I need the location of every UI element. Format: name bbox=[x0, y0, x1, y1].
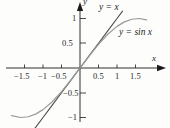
x-tick-label-neg1-5: −1.5 bbox=[14, 72, 29, 81]
plot-canvas bbox=[0, 0, 170, 128]
x-tick-label-pos1-5: 1.5 bbox=[130, 72, 141, 81]
x-axis-label: x bbox=[152, 54, 156, 63]
x-tick-label-neg1: −1 bbox=[38, 72, 47, 81]
y-tick-label-pos1: 1 bbox=[72, 14, 76, 23]
identity-line bbox=[31, 11, 122, 128]
x-tick-label-neg0-5: −0.5 bbox=[51, 72, 66, 81]
y-tick-label-pos0-5: 0.5 bbox=[62, 39, 73, 48]
x-tick-label-pos1: 1 bbox=[115, 72, 119, 81]
y-tick-label-neg0-5: −0.5 bbox=[63, 89, 78, 98]
y-axis-label: y bbox=[83, 0, 87, 6]
y-tick-label-neg1: −1 bbox=[68, 113, 77, 122]
sine-curve-label: y = sin x bbox=[119, 28, 152, 38]
x-tick-label-pos0-5: 0.5 bbox=[93, 72, 104, 81]
identity-line-label: y = x bbox=[99, 3, 119, 13]
x-axis-arrow-icon bbox=[157, 65, 166, 71]
function-graph-figure: −1.5 −1 −0.5 0.5 1 1.5 1 0.5 −0.5 −1 x y… bbox=[0, 0, 170, 128]
